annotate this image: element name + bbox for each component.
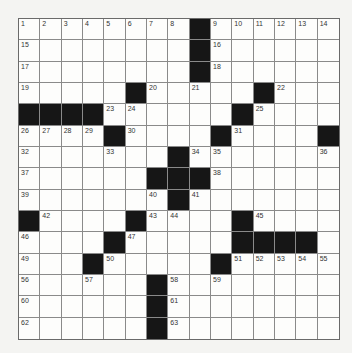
grid-cell[interactable]: 40: [147, 190, 168, 211]
grid-cell[interactable]: [232, 40, 253, 61]
grid-cell[interactable]: [104, 318, 125, 339]
grid-cell[interactable]: [275, 275, 296, 296]
grid-cell[interactable]: [104, 190, 125, 211]
grid-cell[interactable]: 63: [168, 318, 189, 339]
grid-cell[interactable]: 29: [83, 126, 104, 147]
grid-cell[interactable]: [147, 126, 168, 147]
grid-cell[interactable]: [62, 147, 83, 168]
grid-cell[interactable]: 50: [104, 254, 125, 275]
grid-cell[interactable]: [40, 62, 61, 83]
grid-cell[interactable]: [147, 104, 168, 125]
grid-cell[interactable]: 18: [211, 62, 232, 83]
grid-cell[interactable]: [83, 83, 104, 104]
grid-cell[interactable]: [296, 104, 317, 125]
grid-cell[interactable]: [40, 318, 61, 339]
grid-cell[interactable]: [40, 296, 61, 317]
grid-cell[interactable]: 21: [190, 83, 211, 104]
grid-cell[interactable]: 56: [19, 275, 40, 296]
grid-cell[interactable]: [211, 211, 232, 232]
grid-cell[interactable]: [211, 232, 232, 253]
grid-cell[interactable]: 19: [19, 83, 40, 104]
grid-cell[interactable]: 35: [211, 147, 232, 168]
grid-cell[interactable]: [83, 232, 104, 253]
grid-cell[interactable]: [190, 126, 211, 147]
grid-cell[interactable]: [190, 211, 211, 232]
grid-cell[interactable]: 9: [211, 19, 232, 40]
grid-cell[interactable]: [62, 318, 83, 339]
grid-cell[interactable]: [62, 296, 83, 317]
grid-cell[interactable]: [126, 40, 147, 61]
grid-cell[interactable]: 12: [275, 19, 296, 40]
grid-cell[interactable]: [83, 168, 104, 189]
grid-cell[interactable]: [318, 104, 339, 125]
grid-cell[interactable]: 61: [168, 296, 189, 317]
grid-cell[interactable]: [275, 296, 296, 317]
grid-cell[interactable]: [147, 254, 168, 275]
grid-cell[interactable]: 33: [104, 147, 125, 168]
grid-cell[interactable]: [168, 126, 189, 147]
grid-cell[interactable]: [104, 83, 125, 104]
grid-cell[interactable]: 5: [104, 19, 125, 40]
grid-cell[interactable]: 28: [62, 126, 83, 147]
grid-cell[interactable]: [318, 318, 339, 339]
grid-cell[interactable]: 62: [19, 318, 40, 339]
grid-cell[interactable]: [254, 168, 275, 189]
grid-cell[interactable]: [62, 62, 83, 83]
grid-cell[interactable]: [296, 147, 317, 168]
grid-cell[interactable]: [147, 62, 168, 83]
grid-cell[interactable]: [296, 318, 317, 339]
grid-cell[interactable]: [232, 275, 253, 296]
grid-cell[interactable]: [147, 40, 168, 61]
grid-cell[interactable]: 46: [19, 232, 40, 253]
grid-cell[interactable]: [211, 318, 232, 339]
grid-cell[interactable]: [168, 62, 189, 83]
grid-cell[interactable]: [275, 190, 296, 211]
grid-cell[interactable]: 13: [296, 19, 317, 40]
grid-cell[interactable]: [318, 83, 339, 104]
grid-cell[interactable]: 31: [232, 126, 253, 147]
grid-cell[interactable]: 25: [254, 104, 275, 125]
grid-cell[interactable]: [168, 254, 189, 275]
grid-cell[interactable]: [40, 275, 61, 296]
grid-cell[interactable]: [254, 40, 275, 61]
grid-cell[interactable]: [62, 254, 83, 275]
grid-cell[interactable]: 27: [40, 126, 61, 147]
grid-cell[interactable]: [296, 83, 317, 104]
grid-cell[interactable]: 44: [168, 211, 189, 232]
grid-cell[interactable]: [62, 211, 83, 232]
grid-cell[interactable]: 38: [211, 168, 232, 189]
grid-cell[interactable]: 42: [40, 211, 61, 232]
grid-cell[interactable]: [296, 296, 317, 317]
grid-cell[interactable]: [126, 168, 147, 189]
grid-cell[interactable]: 54: [296, 254, 317, 275]
grid-cell[interactable]: [232, 83, 253, 104]
grid-cell[interactable]: 57: [83, 275, 104, 296]
grid-cell[interactable]: [40, 232, 61, 253]
grid-cell[interactable]: 49: [19, 254, 40, 275]
grid-cell[interactable]: 16: [211, 40, 232, 61]
grid-cell[interactable]: [104, 168, 125, 189]
grid-cell[interactable]: [232, 318, 253, 339]
grid-cell[interactable]: 7: [147, 19, 168, 40]
grid-cell[interactable]: [190, 104, 211, 125]
grid-cell[interactable]: [40, 83, 61, 104]
grid-cell[interactable]: 37: [19, 168, 40, 189]
grid-cell[interactable]: [62, 275, 83, 296]
grid-cell[interactable]: [62, 168, 83, 189]
grid-cell[interactable]: [126, 296, 147, 317]
grid-cell[interactable]: [104, 275, 125, 296]
grid-cell[interactable]: 6: [126, 19, 147, 40]
grid-cell[interactable]: [296, 275, 317, 296]
grid-cell[interactable]: [40, 40, 61, 61]
grid-cell[interactable]: 39: [19, 190, 40, 211]
grid-cell[interactable]: [104, 296, 125, 317]
grid-cell[interactable]: 14: [318, 19, 339, 40]
grid-cell[interactable]: [296, 126, 317, 147]
grid-cell[interactable]: [275, 211, 296, 232]
grid-cell[interactable]: 15: [19, 40, 40, 61]
grid-cell[interactable]: [126, 147, 147, 168]
grid-cell[interactable]: [190, 275, 211, 296]
grid-cell[interactable]: [254, 190, 275, 211]
grid-cell[interactable]: [211, 190, 232, 211]
grid-cell[interactable]: [211, 104, 232, 125]
